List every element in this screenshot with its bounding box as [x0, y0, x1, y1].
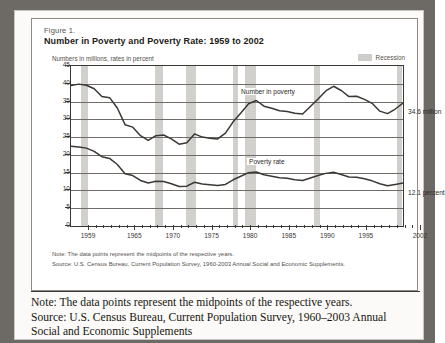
series-lines — [71, 66, 403, 226]
y-axis-tick — [65, 154, 70, 155]
figure-number: Figure 1. — [44, 26, 75, 35]
number-in-poverty-label: Number in poverty — [239, 88, 297, 95]
x-axis-tick — [389, 225, 390, 228]
x-axis-tick — [227, 225, 228, 228]
x-axis-tick — [381, 225, 382, 228]
x-axis-label: 2002 — [413, 232, 428, 239]
document-page: Figure 1. Number in Poverty and Poverty … — [14, 10, 424, 340]
x-axis: 195919651970197519801985199019952002 — [70, 225, 402, 249]
x-axis-tick — [281, 225, 282, 228]
y-axis-tick — [65, 136, 70, 137]
number-in-poverty-end-value: 34.6 million — [408, 108, 441, 115]
x-axis-tick — [235, 225, 236, 228]
x-axis-tick — [188, 225, 189, 228]
x-axis-tick-major — [250, 225, 251, 230]
caption-divider — [31, 291, 420, 292]
figure-title: Number in Poverty and Poverty Rate: 1959… — [44, 36, 264, 46]
figure-caption: Note: The data points represent the midp… — [31, 296, 423, 340]
x-axis-tick — [397, 225, 398, 228]
x-axis-label: 1980 — [243, 232, 258, 239]
x-axis-tick — [374, 225, 375, 228]
plot-area: Number in poverty Poverty rate — [70, 65, 404, 227]
caption-line-source-1: Source: U.S. Census Bureau, Current Popu… — [31, 311, 423, 326]
recession-swatch-icon — [358, 54, 372, 61]
y-axis-tick — [65, 101, 70, 102]
chart-legend: Recession — [358, 54, 405, 61]
x-axis-tick — [242, 225, 243, 228]
y-axis-tick — [65, 118, 70, 119]
caption-line-note: Note: The data points represent the midp… — [31, 296, 423, 311]
y-axis-tick — [65, 83, 70, 84]
x-axis-tick — [304, 225, 305, 228]
x-axis-label: 1990 — [320, 232, 335, 239]
x-axis-label: 1995 — [359, 232, 374, 239]
line-poverty-rate — [71, 146, 403, 186]
figure-container: Figure 1. Number in Poverty and Poverty … — [31, 18, 418, 291]
x-axis-tick-major — [327, 225, 328, 230]
x-axis-tick — [351, 225, 352, 228]
x-axis-tick — [258, 225, 259, 228]
plot-wrapper: Number in poverty Poverty rate 051015202… — [52, 65, 404, 235]
figure-note: Note: The data points represent the midp… — [52, 251, 234, 257]
x-axis-tick-major — [134, 225, 135, 230]
x-axis-tick — [165, 225, 166, 228]
x-axis-tick — [127, 225, 128, 228]
x-axis-tick — [119, 225, 120, 228]
x-axis-tick — [103, 225, 104, 228]
caption-line-source-2: Social and Economic Supplements — [31, 325, 423, 340]
poverty-rate-label: Poverty rate — [247, 158, 287, 165]
x-axis-label: 1985 — [281, 232, 296, 239]
x-axis-tick — [358, 225, 359, 228]
x-axis-tick — [320, 225, 321, 228]
y-axis-tick — [65, 65, 70, 66]
x-axis-tick — [405, 225, 406, 228]
x-axis-tick-major — [420, 225, 421, 230]
x-axis-label: 1975 — [204, 232, 219, 239]
x-axis-tick — [343, 225, 344, 228]
x-axis-label: 1959 — [81, 232, 96, 239]
x-axis-tick-major — [88, 225, 89, 230]
x-axis-tick — [196, 225, 197, 228]
x-axis-tick-major — [212, 225, 213, 230]
line-number-in-poverty — [71, 84, 403, 144]
x-axis-tick — [219, 225, 220, 228]
x-axis-tick-major — [173, 225, 174, 230]
x-axis-tick — [273, 225, 274, 228]
x-axis-tick — [296, 225, 297, 228]
y-axis-tick — [65, 172, 70, 173]
x-axis-tick — [142, 225, 143, 228]
x-axis-tick-major — [366, 225, 367, 230]
poverty-rate-end-value: 12.1 percent — [408, 189, 445, 196]
x-axis-label: 1970 — [166, 232, 181, 239]
x-axis-tick — [150, 225, 151, 228]
x-axis-tick — [181, 225, 182, 228]
x-axis-tick — [96, 225, 97, 228]
x-axis-tick-major — [289, 225, 290, 230]
x-axis-tick — [266, 225, 267, 228]
x-axis-tick — [157, 225, 158, 228]
x-axis-tick — [111, 225, 112, 228]
x-axis-tick — [204, 225, 205, 228]
x-axis-tick — [412, 225, 413, 228]
x-axis-label: 1965 — [127, 232, 142, 239]
y-axis-tick — [65, 207, 70, 208]
figure-source: Source: U.S. Census Bureau, Current Popu… — [52, 261, 345, 267]
x-axis-tick — [335, 225, 336, 228]
legend-label-recession: Recession — [376, 54, 405, 61]
y-axis-tick — [65, 189, 70, 190]
x-axis-tick — [312, 225, 313, 228]
